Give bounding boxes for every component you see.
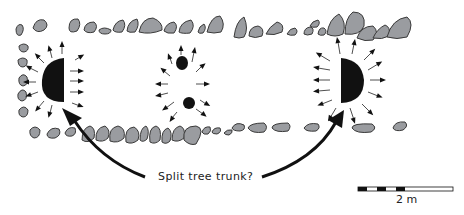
annotation-label: Split tree trunk? bbox=[158, 170, 253, 183]
right-split-trunk bbox=[313, 37, 386, 125]
left-split-trunk bbox=[23, 41, 85, 118]
bottom-stone-row bbox=[30, 122, 407, 145]
center-posts bbox=[155, 45, 212, 123]
right-arrow bbox=[262, 110, 344, 177]
scale-label: 2 m bbox=[396, 193, 417, 206]
scale-bar bbox=[358, 187, 453, 191]
top-stone-row bbox=[16, 12, 411, 41]
